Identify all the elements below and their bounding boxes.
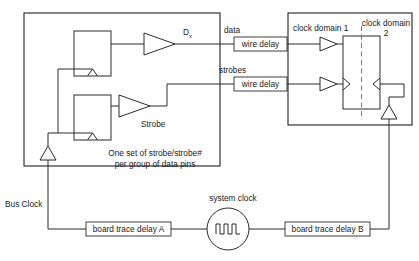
diagram-canvas: wire delay wire delay board trace [0, 0, 419, 261]
transmit-clock-buffer [40, 146, 56, 160]
board-trace-delay-a-label: board trace delay A [93, 224, 165, 234]
bus-clock-label: Bus Clock [5, 199, 43, 209]
strobes-net-label: strobes [219, 65, 246, 75]
wire-strobedriver-to-wiredelay [150, 84, 234, 106]
data-net-label: data [224, 25, 241, 35]
strobe-group-note-line1: One set of strobe/strobe# [108, 148, 202, 158]
board-trace-delay-b-label: board trace delay B [292, 224, 364, 234]
strobe-receiver-buffer [320, 77, 337, 91]
wire-rxclkbuf-out-riser [389, 97, 404, 105]
data-receiver-buffer [320, 37, 337, 51]
data-output-label: Dx [183, 27, 192, 39]
strobe-driver-buffer [119, 95, 150, 117]
strobe-output-label: Strobe [141, 119, 166, 129]
system-clock-label: system clock [209, 193, 257, 203]
data-driver-buffer [144, 33, 175, 55]
receive-clock-buffer [381, 105, 397, 119]
clock-domain-2-label-line1: clock domain [362, 18, 411, 28]
timing-diagram: wire delay wire delay board trace [0, 0, 419, 261]
clock-domain-1-label: clock domain 1 [293, 23, 349, 33]
square-wave-icon [216, 224, 240, 234]
wire-rxclkbuf-to-register [380, 84, 404, 97]
clock-domain-2-label-line2: 2 [384, 28, 389, 38]
wire-delay-data-label: wire delay [241, 39, 280, 49]
strobe-group-note-line2: per group of data pins [115, 159, 196, 169]
wire-delay-strobes-label: wire delay [241, 79, 280, 89]
